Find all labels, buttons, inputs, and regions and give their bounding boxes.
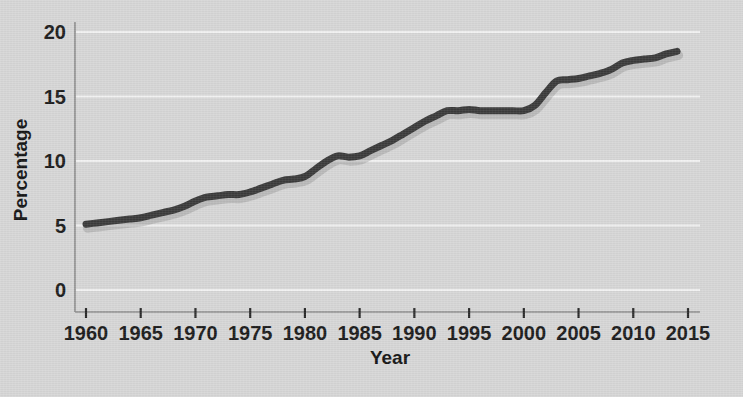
x-tick-label-2000: 2000: [502, 322, 547, 344]
x-tick-label-1975: 1975: [228, 322, 273, 344]
y-tick-label-20: 20: [44, 21, 66, 43]
y-axis-title: Percentage: [10, 119, 31, 221]
x-tick-label-group: 1960196519701975198019851990199520002005…: [64, 322, 711, 344]
x-tick-label-2015: 2015: [666, 322, 711, 344]
x-axis-title: Year: [370, 347, 411, 368]
x-tick-label-2010: 2010: [611, 322, 656, 344]
x-tick-label-1960: 1960: [64, 322, 109, 344]
y-tick-label-group: 05101520: [44, 21, 66, 301]
x-tick-label-2005: 2005: [556, 322, 601, 344]
series-line-percentage: [86, 51, 677, 224]
y-tick-label-10: 10: [44, 150, 66, 172]
y-tick-label-0: 0: [55, 279, 66, 301]
chart-figure: 05101520 1960196519701975198019851990199…: [0, 0, 743, 397]
x-tick-label-1965: 1965: [118, 322, 163, 344]
y-tick-label-5: 5: [55, 215, 66, 237]
x-tick-label-1980: 1980: [283, 322, 328, 344]
line-chart-plot: 05101520 1960196519701975198019851990199…: [0, 0, 743, 397]
data-series-group: [86, 51, 679, 228]
x-tick-group: [86, 308, 688, 318]
y-tick-label-15: 15: [44, 86, 66, 108]
x-tick-label-1990: 1990: [392, 322, 437, 344]
x-tick-label-1995: 1995: [447, 322, 492, 344]
x-tick-label-1985: 1985: [337, 322, 382, 344]
x-tick-label-1970: 1970: [173, 322, 218, 344]
